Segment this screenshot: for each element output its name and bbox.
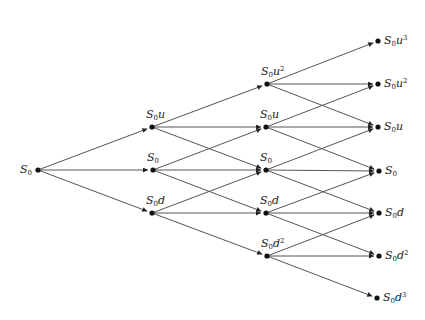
node-n1_u xyxy=(149,124,154,129)
node-label-n1_0: S0 xyxy=(147,152,159,165)
trinomial-tree-diagram: S0S0uS0S0dS0u2S0uS0S0dS0d2S0u3S0u2S0uS0S… xyxy=(0,0,425,320)
edge-n2_dd-to-n3_d3 xyxy=(267,256,372,296)
node-n2_uu xyxy=(264,81,269,86)
node-n3_d2 xyxy=(376,253,381,258)
node-label-n3_d2: S0d2 xyxy=(385,250,409,263)
edge-n2_uu-to-n3_u xyxy=(267,84,373,125)
edges-group xyxy=(38,43,374,296)
edge-n2_0-to-n3_0 xyxy=(266,170,374,171)
node-label-n1_u: S0u xyxy=(146,109,165,122)
node-label-n3_u2: S0u2 xyxy=(384,78,408,91)
node-n3_0 xyxy=(376,168,381,173)
node-n1_0 xyxy=(150,167,155,172)
edge-n1_0-to-n2_d xyxy=(153,170,261,211)
node-n1_d xyxy=(149,210,154,215)
node-label-n3_u3: S0u3 xyxy=(384,35,408,48)
node-label-n2_dd: S0d2 xyxy=(261,238,285,251)
edge-n1_0-to-n2_u xyxy=(153,129,261,170)
edge-n0_0-to-n1_d xyxy=(38,170,147,211)
edge-n1_d-to-n2_dd xyxy=(152,213,262,254)
node-label-n2_0: S0 xyxy=(260,152,272,165)
node-n2_d xyxy=(263,210,268,215)
node-n3_u2 xyxy=(375,81,380,86)
tree-edges-layer xyxy=(0,0,425,320)
node-n3_u3 xyxy=(375,38,380,43)
node-label-n3_d3: S0d3 xyxy=(383,292,407,305)
edge-n1_d-to-n2_0 xyxy=(152,172,261,213)
edge-n2_0-to-n3_d xyxy=(266,170,374,211)
node-n0_0 xyxy=(35,167,40,172)
node-n3_d xyxy=(376,210,381,215)
node-n3_d3 xyxy=(374,295,379,300)
node-label-n2_d: S0d xyxy=(260,195,279,208)
node-label-n0_0: S0 xyxy=(20,164,32,177)
edge-n2_d-to-n3_0 xyxy=(266,173,374,213)
node-n2_0 xyxy=(263,167,268,172)
node-label-n3_0: S0 xyxy=(385,165,397,178)
node-label-n3_u: S0u xyxy=(384,121,403,134)
edge-n2_0-to-n3_u xyxy=(266,129,373,170)
edge-n1_u-to-n2_0 xyxy=(152,127,261,168)
edge-n2_u-to-n3_u2 xyxy=(266,86,373,127)
node-n2_u xyxy=(263,124,268,129)
node-label-n2_uu: S0u2 xyxy=(261,66,285,79)
edge-n0_0-to-n1_u xyxy=(38,129,147,170)
node-n3_u xyxy=(375,124,380,129)
node-label-n3_d: S0d xyxy=(385,207,404,220)
node-n2_dd xyxy=(264,253,269,258)
node-label-n2_u: S0u xyxy=(260,109,279,122)
edge-n2_u-to-n3_0 xyxy=(266,127,374,169)
node-label-n1_d: S0d xyxy=(146,195,165,208)
edge-n1_u-to-n2_uu xyxy=(152,86,262,127)
